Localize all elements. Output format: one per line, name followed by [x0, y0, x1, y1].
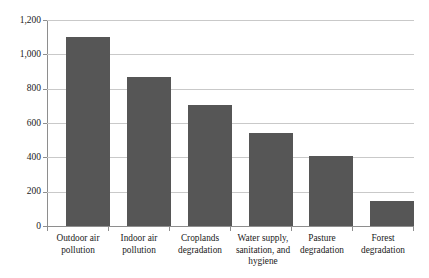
- x-label-line: pollution: [105, 245, 173, 257]
- x-label-outdoor-air-pollution: Outdoor air pollution: [44, 233, 112, 256]
- x-tick-6: [413, 226, 414, 231]
- x-tick-2: [169, 226, 170, 231]
- y-axis-label-0: 0: [0, 221, 41, 231]
- x-label-line: pollution: [44, 245, 112, 257]
- x-label-forest-degradation: Forest degradation: [349, 233, 417, 256]
- bar-croplands-degradation: [188, 105, 232, 226]
- x-label-line: hygiene: [226, 256, 300, 268]
- y-axis-label-200: 200: [0, 186, 41, 196]
- x-tick-5: [352, 226, 353, 231]
- y-axis-label-1000: 1,000: [0, 49, 41, 59]
- x-label-line: Croplands: [166, 233, 234, 245]
- x-tick-4: [291, 226, 292, 231]
- x-tick-0: [47, 226, 48, 231]
- x-label-indoor-air-pollution: Indoor air pollution: [105, 233, 173, 256]
- x-label-line: Outdoor air: [44, 233, 112, 245]
- x-label-croplands-degradation: Croplands degradation: [166, 233, 234, 256]
- bar-indoor-air-pollution: [127, 77, 171, 226]
- bar-pasture-degradation: [309, 156, 353, 226]
- bar-water-supply-sanitation-hygiene: [249, 133, 293, 226]
- x-label-line: degradation: [349, 245, 417, 257]
- y-axis-label-600: 600: [0, 118, 41, 128]
- x-label-line: degradation: [288, 245, 356, 257]
- x-label-line: Indoor air: [105, 233, 173, 245]
- x-label-line: Pasture: [288, 233, 356, 245]
- x-tick-1: [108, 226, 109, 231]
- bar-chart: 1,200 1,000 800 600 400 200 0: [0, 0, 429, 278]
- y-axis-label-800: 800: [0, 83, 41, 93]
- y-axis-label-400: 400: [0, 152, 41, 162]
- y-axis-label-1200: 1,200: [0, 15, 41, 25]
- plot-area: [47, 20, 414, 226]
- x-label-pasture-degradation: Pasture degradation: [288, 233, 356, 256]
- x-label-line: degradation: [166, 245, 234, 257]
- x-tick-3: [230, 226, 231, 231]
- bar-outdoor-air-pollution: [66, 37, 110, 226]
- x-label-line: Forest: [349, 233, 417, 245]
- bar-forest-degradation: [370, 201, 414, 226]
- gridline-1200: [47, 20, 414, 21]
